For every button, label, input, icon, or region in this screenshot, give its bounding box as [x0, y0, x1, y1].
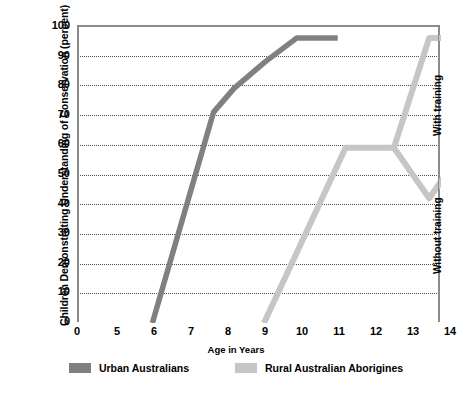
y-tick-30: 30 [40, 227, 70, 238]
series-line-urban-australians [152, 38, 337, 323]
x-tick-13: 13 [398, 326, 428, 337]
y-tick-40: 40 [40, 198, 70, 209]
plot-frame-left [78, 26, 79, 322]
x-tick-6: 6 [139, 326, 169, 337]
y-tick-70: 70 [40, 109, 70, 120]
legend-label-urban-australians: Urban Australians [99, 362, 189, 374]
legend-item-urban-australians: Urban Australians [69, 362, 189, 374]
x-tick-7: 7 [176, 326, 206, 337]
x-tick-8: 8 [213, 326, 243, 337]
x-tick-10: 10 [287, 326, 317, 337]
legend-swatch-icon-urban-australians [69, 363, 91, 373]
x-axis-title: Age in Years [0, 344, 472, 355]
y-tick-20: 20 [40, 257, 70, 268]
annotation-with-training: With training [432, 75, 443, 136]
chart-figure: Children Demonstrating Understanding of … [0, 0, 472, 398]
plot-frame-right [438, 26, 439, 322]
y-tick-50: 50 [40, 168, 70, 179]
y-tick-10: 10 [40, 286, 70, 297]
plot-area: With training Without training [77, 25, 440, 322]
plot-frame-top [78, 26, 439, 27]
legend-label-rural-australian-aborigines: Rural Australian Aborigines [265, 362, 403, 374]
x-tick-5: 5 [102, 326, 132, 337]
x-tick-9: 9 [250, 326, 280, 337]
y-tick-90: 90 [40, 50, 70, 61]
y-tick-60: 60 [40, 138, 70, 149]
x-tick-11: 11 [324, 326, 354, 337]
series-lines [78, 26, 441, 323]
y-tick-80: 80 [40, 79, 70, 90]
chart-legend: Urban Australians Rural Australian Abori… [0, 362, 472, 374]
x-tick-0: 0 [62, 326, 92, 337]
x-tick-14: 14 [435, 326, 465, 337]
legend-item-rural-australian-aborigines: Rural Australian Aborigines [235, 362, 403, 374]
x-tick-12: 12 [361, 326, 391, 337]
legend-swatch-icon-rural-australian-aborigines [235, 363, 257, 373]
annotation-without-training: Without training [432, 197, 443, 274]
y-tick-100: 100 [40, 20, 70, 31]
series-line-rural-branch-without-training [394, 148, 441, 199]
